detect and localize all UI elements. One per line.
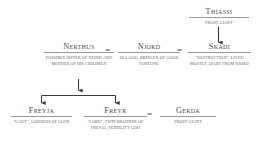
node-skadi-desc: "Destruction", lived mostly apart from N… (188, 53, 251, 66)
node-njord: Njord Sea god, bringer of good fortune (118, 43, 180, 67)
node-gerda-name: Gerda (160, 107, 216, 117)
union-symbol-freyr-gerda: = (147, 110, 152, 119)
node-nerthus: Nerthus Possibly sister of Njord and mot… (44, 43, 114, 67)
node-nerthus-name: Nerthus (44, 43, 114, 53)
node-thiassi-name: Thiassi (189, 8, 249, 18)
node-skadi: Skadi "Destruction", lived mostly apart … (188, 43, 251, 67)
node-freyja-desc: "Lady", goddess of love (11, 117, 72, 124)
node-nerthus-desc: Possibly sister of Njord and mother of h… (44, 53, 114, 66)
node-thiassi-desc: Frost Giant (189, 18, 249, 25)
union-symbol-nerthus-njord: = (105, 46, 110, 55)
union-symbol-njord-skadi: = (177, 46, 182, 55)
node-freyr-desc: "Lord", twin brother of Freyja, fertilit… (84, 117, 147, 130)
node-freyja-name: Freyja (11, 107, 72, 117)
node-freyja: Freyja "Lady", goddess of love (11, 107, 72, 125)
node-njord-desc: Sea god, bringer of good fortune (118, 53, 180, 66)
node-freyr: Freyr "Lord", twin brother of Freyja, fe… (84, 107, 147, 131)
node-gerda-desc: Frost Giant (160, 117, 216, 124)
node-gerda: Gerda Frost Giant (160, 107, 216, 125)
node-njord-name: Njord (118, 43, 180, 53)
node-skadi-name: Skadi (188, 43, 251, 53)
node-thiassi: Thiassi Frost Giant (189, 8, 249, 26)
family-tree-diagram: Thiassi Frost Giant Nerthus Possibly sis… (0, 0, 260, 149)
node-freyr-name: Freyr (84, 107, 147, 117)
